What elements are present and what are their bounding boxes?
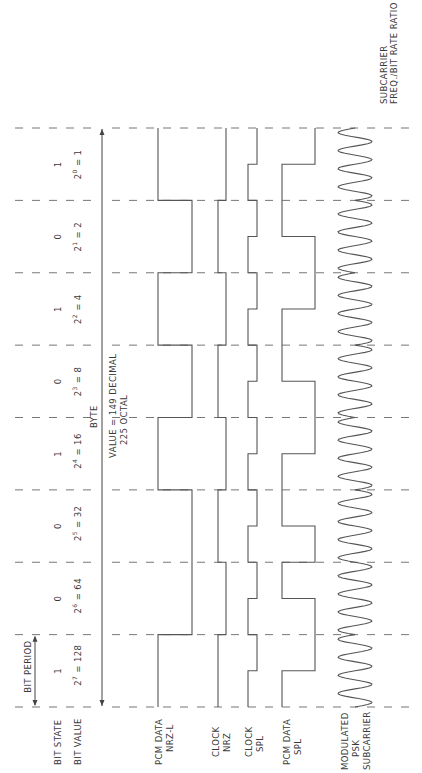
bit-value: 22 = 4: [71, 294, 83, 324]
label-psk-sub2: SUBCARRIER: [362, 711, 372, 770]
label-bit-value: BIT VALUE: [73, 718, 83, 765]
label-bit-state: BIT STATE: [53, 720, 63, 765]
label-pcm-spl-sub: SPL: [293, 739, 303, 755]
clock-nrz-waveform: [218, 128, 226, 707]
label-clock-nrz: CLOCK: [211, 726, 221, 757]
bit-value: 25 = 32: [71, 506, 83, 541]
bit-value: 27 = 128: [71, 645, 83, 686]
bit-state-value: 1: [53, 161, 63, 167]
pcm-nrzl-waveform: [158, 128, 192, 707]
psk-subcarrier-waveform: [338, 128, 372, 707]
label-pcm-spl: PCM DATA: [282, 719, 292, 765]
pcm-timing-diagram: BIT STATEBIT VALUEPCM DATANRZ-LCLOCKNRZC…: [0, 0, 422, 773]
label-psk: MODULATED: [340, 712, 350, 770]
label-byte: BYTE: [89, 405, 99, 428]
bit-state-value: 0: [53, 596, 63, 602]
bit-value: 24 = 16: [71, 433, 83, 468]
label-ratio-note: FREQ./BIT RATE RATIO = 4: [389, 0, 399, 104]
label-pcm-nrzl-sub: NRZ-L: [165, 724, 175, 752]
label-bit-period: BIT PERIOD: [23, 640, 33, 692]
bit-state-value: 1: [53, 306, 63, 312]
label-clock-spl-sub: SPL: [255, 736, 265, 752]
bit-value: 20 = 1: [71, 150, 83, 180]
clock-spl-waveform: [248, 128, 257, 707]
bit-value: 26 = 64: [71, 578, 83, 613]
bit-state-value: 1: [53, 451, 63, 457]
label-clock-nrz-sub: NRZ: [222, 733, 232, 752]
label-byte-value-octal: 225 OCTAL: [119, 395, 129, 445]
bit-state-value: 0: [53, 379, 63, 385]
label-clock-spl: CLOCK: [244, 726, 254, 757]
bit-state-value: 0: [53, 234, 63, 240]
bit-value: 23 = 8: [71, 367, 83, 397]
bit-state-value: 0: [53, 523, 63, 529]
arrowhead-icon: [33, 700, 38, 706]
label-pcm-nrzl: PCM DATA: [154, 719, 164, 765]
bit-state-value: 1: [53, 668, 63, 674]
arrowhead-icon: [100, 129, 105, 135]
arrowhead-icon: [33, 636, 38, 642]
bit-value: 21 = 2: [71, 222, 83, 252]
label-psk-sub: PSK: [351, 740, 361, 757]
arrowhead-icon: [100, 700, 105, 706]
label-byte-value-decimal: VALUE = 149 DECIMAL: [108, 354, 118, 458]
label-subcarrier-note: SUBCARRIER: [379, 45, 389, 104]
diagram-labels: BIT STATEBIT VALUEPCM DATANRZ-LCLOCKNRZC…: [23, 0, 399, 770]
